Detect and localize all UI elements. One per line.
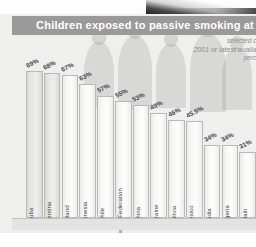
bar-value-label: 55% [113, 87, 128, 99]
bar-value-label: 53% [131, 91, 146, 103]
subtitle-line-2: 2001 or latest availab [193, 46, 256, 55]
bar-bolivia: Bolivia [168, 120, 185, 218]
bar-indonesia: Indonesia [79, 84, 96, 218]
subtitle-line-1: selected co [193, 37, 256, 46]
bar-mexico: Mexico [186, 121, 203, 218]
page-bottom-strip [0, 233, 256, 247]
bar-value-label: 68% [42, 59, 57, 71]
bar-value-label: 67% [60, 61, 75, 73]
bar-india: India [204, 145, 221, 218]
bar-value-label: 63% [78, 69, 93, 81]
bar-poland: Poland [62, 75, 79, 218]
bar-value-label: 31% [238, 138, 253, 150]
bar-nigeria: Nigeria [222, 145, 239, 218]
chart-panel: Children exposed to passive smoking at s… [0, 14, 256, 233]
bar-value-label: 49% [149, 99, 164, 111]
bar-value-label: 45.5% [185, 104, 205, 119]
bar-chart-plot: Cuba69%Argentina68%Poland67%Indonesia63%… [26, 58, 256, 218]
bar-haiti: Haiti [239, 152, 256, 218]
bar-cuba: Cuba [26, 71, 43, 218]
bar-value-label: 57% [96, 82, 111, 94]
bar-china: China [133, 105, 150, 218]
chart-baseline [12, 218, 256, 230]
page-top-strip [0, 0, 256, 14]
bar-value-label: 34% [220, 131, 235, 143]
bar-russian-federation: Russian Federation [115, 101, 132, 218]
bar-chile: Chile [97, 96, 114, 218]
bar-argentina: Argentina [44, 73, 61, 218]
bar-value-label: 46% [167, 106, 182, 118]
chart-title-band: Children exposed to passive smoking at [12, 16, 256, 35]
chart-page: Children exposed to passive smoking at s… [0, 0, 256, 247]
bar-ukraine: Ukraine [150, 113, 167, 218]
bar-value-label: 34% [202, 131, 217, 143]
page-title: Children exposed to passive smoking at [36, 19, 254, 31]
bar-value-label: 69% [24, 57, 39, 69]
